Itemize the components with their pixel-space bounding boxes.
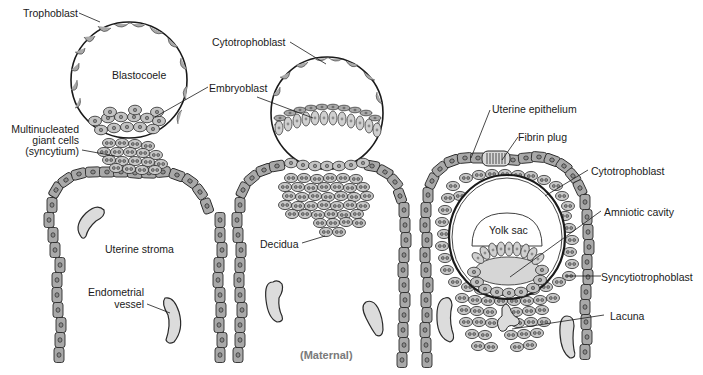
panel-stage-3 (420, 151, 594, 368)
endometrial-vessel-3b (560, 316, 575, 358)
endometrial-vessel-3a (437, 298, 454, 342)
label-cytotrophoblast-3: Cytotrophoblast (591, 165, 665, 177)
fibrin-plug (482, 151, 510, 166)
blastocyst-2 (271, 57, 383, 171)
uterine-epithelium-1 (44, 166, 227, 362)
label-cytotrophoblast-2: Cytotrophoblast (212, 36, 286, 48)
label-vessel-line2: vessel (60, 298, 144, 310)
endometrial-vessel-2b (363, 301, 383, 336)
panel-stage-2 (232, 57, 411, 368)
label-fibrin-plug: Fibrin plug (518, 131, 567, 143)
label-syncytium-line3: (syncytium) (0, 145, 79, 157)
endometrial-vessel-1b (164, 298, 181, 343)
label-blastocoele: Blastocoele (112, 69, 166, 81)
label-maternal: (Maternal) (300, 349, 353, 361)
label-trophoblast: Trophoblast (2, 7, 78, 19)
endometrial-vessel-2a (266, 281, 283, 322)
label-amniotic-cavity: Amniotic cavity (604, 206, 674, 218)
endometrial-vessel-1a (78, 207, 104, 238)
label-vessel-line1: Endometrial (60, 286, 144, 298)
implantation-diagram: Trophoblast Blastocoele Embryoblast Mult… (0, 0, 703, 375)
label-lacuna: Lacuna (610, 310, 644, 322)
diagram-canvas (0, 0, 703, 375)
embryo-sphere (449, 175, 565, 299)
label-syncytiotrophoblast: Syncytiotrophoblast (601, 271, 693, 283)
label-yolk-sac: Yolk sac (489, 224, 528, 236)
label-uterine-epithelium: Uterine epithelium (492, 103, 577, 115)
label-decidua: Decidua (260, 238, 299, 250)
decidua-cluster (279, 173, 374, 236)
label-embryoblast: Embryoblast (209, 82, 267, 94)
label-uterine-stroma: Uterine stroma (105, 243, 174, 255)
